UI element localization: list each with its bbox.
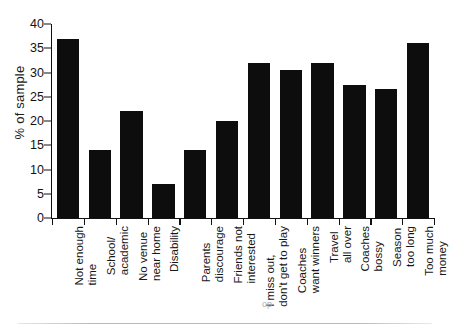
x-axis-label: Coachesbossy bbox=[359, 226, 384, 271]
x-axis-label-line: discourage bbox=[213, 226, 226, 282]
x-axis-label-line: academic bbox=[117, 226, 130, 275]
x-tick-mark bbox=[307, 218, 308, 225]
x-axis-label-line: don't get to play bbox=[276, 226, 289, 307]
plot-area bbox=[52, 24, 434, 218]
x-axis-label-line: interested bbox=[245, 226, 258, 284]
bar bbox=[407, 43, 429, 218]
x-axis-labels: Not enoughtimeSchool/academicNo venuenea… bbox=[52, 226, 434, 321]
x-tick-mark bbox=[52, 218, 53, 225]
x-tick-mark bbox=[434, 218, 435, 225]
x-axis-label-line: bossy bbox=[372, 226, 385, 271]
y-tick-label: 25 bbox=[30, 90, 44, 104]
y-tick-mark bbox=[44, 121, 51, 122]
x-axis-label-line: Not enough bbox=[73, 226, 85, 285]
y-tick-mark bbox=[44, 48, 51, 49]
x-axis-label-line: Friends not bbox=[232, 226, 244, 284]
x-tick-mark bbox=[84, 218, 85, 225]
x-axis-label-line: No venue bbox=[137, 232, 149, 281]
x-axis-label: Travelall over bbox=[328, 226, 353, 263]
y-tick-label: 40 bbox=[30, 17, 44, 31]
x-axis-label-line: time bbox=[85, 226, 98, 285]
x-axis-label-line: Travel bbox=[328, 232, 340, 264]
y-tick-label: 10 bbox=[30, 163, 44, 177]
x-axis-label: No venuenear home bbox=[137, 226, 162, 281]
bar bbox=[120, 111, 142, 218]
x-axis-label-line: money bbox=[436, 226, 449, 276]
y-tick-mark bbox=[44, 169, 51, 170]
bar bbox=[311, 63, 333, 218]
x-axis-label-line: all over bbox=[340, 226, 353, 263]
x-tick-mark bbox=[211, 218, 212, 225]
bar bbox=[57, 39, 79, 218]
x-axis-label-line: Too much bbox=[423, 226, 435, 276]
x-tick-mark bbox=[179, 218, 180, 225]
y-tick-mark bbox=[44, 96, 51, 97]
x-axis-label-line: Disability bbox=[168, 226, 180, 272]
x-tick-mark bbox=[275, 218, 276, 225]
x-axis-label: I miss out,don't get to play bbox=[264, 226, 289, 307]
y-tick-mark bbox=[44, 218, 51, 219]
x-axis-label: Friends notinterested bbox=[232, 226, 257, 284]
x-axis-label-line: Coaches bbox=[296, 248, 308, 293]
x-tick-mark bbox=[402, 218, 403, 225]
x-tick-mark bbox=[116, 218, 117, 225]
y-tick-mark bbox=[44, 145, 51, 146]
x-tick-mark bbox=[243, 218, 244, 225]
y-tick-label: 30 bbox=[30, 66, 44, 80]
x-axis-label-line: Coaches bbox=[359, 226, 371, 271]
y-tick-label: 0 bbox=[37, 211, 44, 225]
x-axis-label-line: near home bbox=[149, 226, 162, 281]
x-axis-label-line: Parents bbox=[200, 243, 212, 283]
x-axis-label: Seasontoo long bbox=[391, 226, 416, 267]
bar-chart: % of sample 0510152025303540 Not enought… bbox=[0, 0, 450, 330]
y-axis: 0510152025303540 bbox=[0, 0, 56, 330]
bar bbox=[343, 85, 365, 218]
x-tick-mark bbox=[148, 218, 149, 225]
x-axis-label: Disability bbox=[168, 226, 181, 272]
x-axis-label-line: I miss out, bbox=[264, 254, 276, 306]
bar bbox=[152, 184, 174, 218]
y-tick-label: 35 bbox=[30, 41, 44, 55]
bar bbox=[184, 150, 206, 218]
y-tick-label: 15 bbox=[30, 138, 44, 152]
x-tick-mark bbox=[370, 218, 371, 225]
x-axis-label-line: want winners bbox=[308, 226, 321, 293]
x-tick-mark bbox=[339, 218, 340, 225]
bar bbox=[89, 150, 111, 218]
x-axis-label-line: too long bbox=[404, 226, 417, 267]
bar bbox=[248, 63, 270, 218]
x-axis-label: Not enoughtime bbox=[73, 226, 98, 285]
x-axis-label: Too muchmoney bbox=[423, 226, 448, 276]
bar bbox=[280, 70, 302, 218]
y-tick-label: 20 bbox=[30, 114, 44, 128]
scan-artifact: do bbox=[262, 300, 272, 310]
x-axis-label: Parentsdiscourage bbox=[200, 226, 225, 282]
y-tick-mark bbox=[44, 72, 51, 73]
x-axis-label: Coacheswant winners bbox=[296, 226, 321, 293]
x-axis-label-line: Season bbox=[391, 228, 403, 267]
x-axis-label: School/academic bbox=[105, 226, 130, 275]
bottom-divider bbox=[18, 323, 432, 324]
x-axis-label-line: School/ bbox=[105, 237, 117, 275]
bar bbox=[216, 121, 238, 218]
y-tick-mark bbox=[44, 24, 51, 25]
y-tick-mark bbox=[44, 193, 51, 194]
y-tick-label: 5 bbox=[37, 187, 44, 201]
bar bbox=[375, 89, 397, 218]
